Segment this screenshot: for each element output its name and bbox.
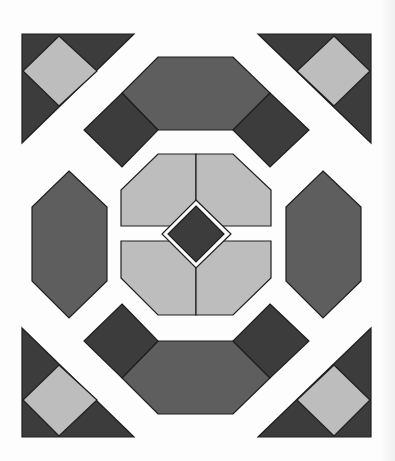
hexagon-right <box>286 171 361 318</box>
quilt-block-pattern <box>0 0 395 461</box>
hexagon-left <box>32 171 107 318</box>
